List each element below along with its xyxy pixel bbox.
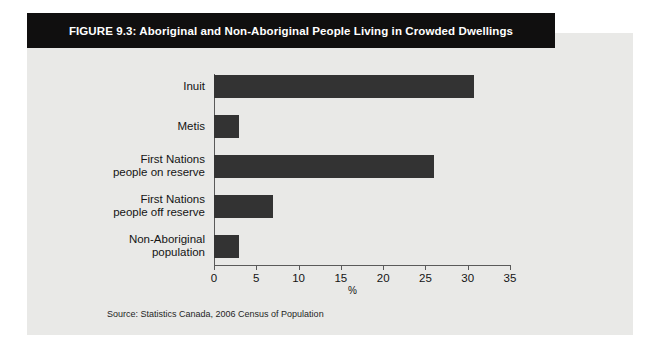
x-tick-mark — [425, 265, 426, 270]
category-label: Inuit — [183, 80, 205, 94]
x-tick-mark — [510, 265, 511, 270]
figure-panel: InuitMetisFirst Nations people on reserv… — [27, 33, 633, 335]
figure-title-banner: FIGURE 9.3: Aboriginal and Non-Aborigina… — [27, 13, 555, 48]
bar — [214, 235, 239, 258]
bar-row: First Nations people on reserve — [214, 155, 510, 178]
category-label: First Nations people off reserve — [113, 193, 205, 220]
category-label: Non-Aboriginal population — [129, 233, 205, 260]
x-tick-label: 15 — [334, 272, 347, 284]
bar — [214, 155, 434, 178]
page-title: FIGURE 9.3: Aboriginal and Non-Aborigina… — [69, 25, 513, 37]
bar-chart: InuitMetisFirst Nations people on reserv… — [27, 33, 633, 335]
x-tick-label: 5 — [253, 272, 259, 284]
x-tick-label: 35 — [504, 272, 517, 284]
bar — [214, 195, 273, 218]
x-tick-label: 0 — [211, 272, 217, 284]
category-label: Metis — [178, 120, 205, 134]
x-tick-mark — [256, 265, 257, 270]
x-tick-label: 30 — [461, 272, 474, 284]
x-tick-mark — [468, 265, 469, 270]
x-tick-mark — [383, 265, 384, 270]
bar-row: Non-Aboriginal population — [214, 235, 510, 258]
x-tick-label: 20 — [377, 272, 390, 284]
x-axis-unit-label: % — [348, 285, 357, 296]
bar-row: Metis — [214, 115, 510, 138]
x-tick-mark — [341, 265, 342, 270]
bar-row: Inuit — [214, 75, 510, 98]
x-tick-label: 10 — [292, 272, 305, 284]
category-label: First Nations people on reserve — [113, 153, 205, 180]
x-axis-line — [214, 265, 511, 266]
x-tick-mark — [299, 265, 300, 270]
bar — [214, 75, 474, 98]
x-tick-mark — [214, 265, 215, 270]
bar-row: First Nations people off reserve — [214, 195, 510, 218]
source-note: Source: Statistics Canada, 2006 Census o… — [107, 309, 324, 319]
bar — [214, 115, 239, 138]
x-tick-label: 25 — [419, 272, 432, 284]
